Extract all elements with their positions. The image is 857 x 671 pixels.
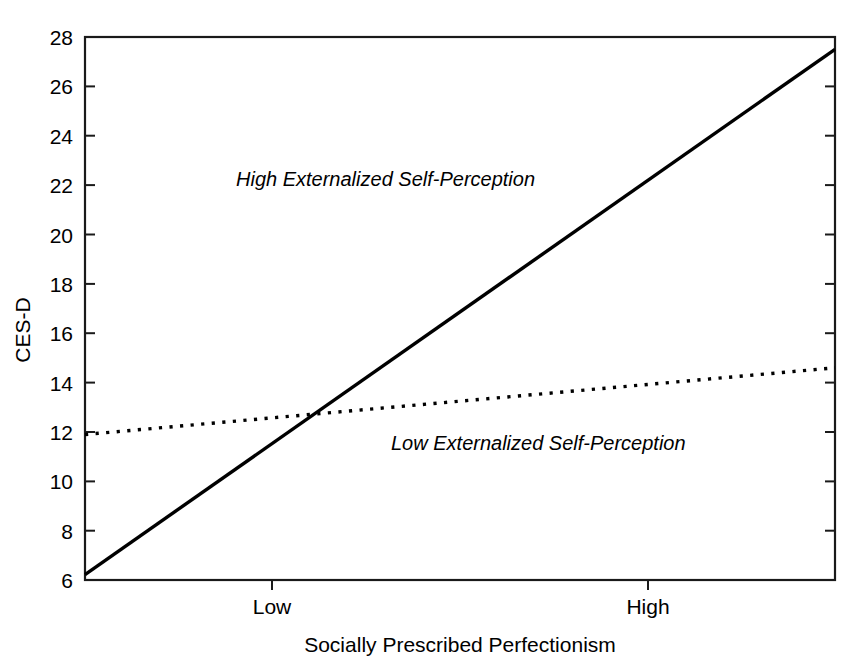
y-axis-title: CES-D — [11, 297, 34, 362]
y-tick-label: 10 — [50, 470, 73, 493]
plot-frame — [85, 37, 835, 580]
annotation-high-externalized: High Externalized Self-Perception — [236, 168, 535, 190]
x-tick-labels: Low High — [253, 595, 670, 618]
series-line-high-externalized — [85, 49, 835, 574]
series-line-low-externalized — [85, 368, 835, 435]
y-tick-label: 8 — [61, 520, 73, 543]
right-axis-ticks — [825, 86, 835, 530]
y-axis-ticks — [85, 37, 95, 580]
x-tick-label-high: High — [626, 595, 669, 618]
interaction-plot-svg: 28 26 24 22 20 18 16 14 12 10 8 6 Low Hi… — [0, 0, 857, 671]
y-tick-labels: 28 26 24 22 20 18 16 14 12 10 8 6 — [50, 26, 74, 592]
annotation-low-externalized: Low Externalized Self-Perception — [391, 432, 686, 454]
y-tick-label: 20 — [50, 224, 73, 247]
chart-figure: 28 26 24 22 20 18 16 14 12 10 8 6 Low Hi… — [0, 0, 857, 671]
y-tick-label: 6 — [61, 569, 73, 592]
y-tick-label: 16 — [50, 322, 73, 345]
y-tick-label: 28 — [50, 26, 73, 49]
y-tick-label: 12 — [50, 421, 73, 444]
y-tick-label: 22 — [50, 174, 73, 197]
y-tick-label: 24 — [50, 125, 74, 148]
y-tick-label: 14 — [50, 372, 74, 395]
y-tick-label: 18 — [50, 273, 73, 296]
y-tick-label: 26 — [50, 75, 73, 98]
x-tick-label-low: Low — [253, 595, 292, 618]
x-axis-title: Socially Prescribed Perfectionism — [304, 633, 616, 656]
x-axis-ticks — [272, 580, 648, 590]
